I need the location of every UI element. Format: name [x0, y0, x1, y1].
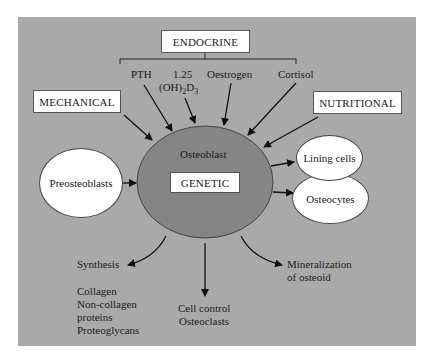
- vitamin-d-label-line2: (OH)2D3: [159, 81, 198, 98]
- vitamin-d-label-line1: 1.25: [173, 68, 192, 81]
- arrow-osteocytes: [273, 192, 293, 193]
- arrow-mineralization: [241, 236, 282, 265]
- endocrine-bracket: [120, 52, 296, 64]
- arrow-oestrogen: [224, 83, 231, 125]
- osteocytes-label: Osteocytes: [306, 193, 354, 205]
- arrow-lining-cells: [271, 162, 294, 166]
- nutritional-box: NUTRITIONAL: [313, 91, 402, 114]
- arrow-cortisol: [248, 83, 296, 135]
- synthesis-item: proteins: [77, 311, 112, 324]
- cortisol-label: Cortisol: [278, 68, 313, 81]
- synthesis-label: Synthesis: [77, 258, 119, 271]
- preosteoblasts-ellipse: Preosteoblasts: [39, 148, 123, 218]
- pth-label: PTH: [131, 68, 152, 81]
- cell-control-label: Cell control: [178, 302, 230, 315]
- synthesis-item: Collagen: [77, 285, 117, 298]
- mineralization-label: Mineralization: [287, 258, 352, 271]
- lining-cells-label: Lining cells: [303, 152, 355, 164]
- endocrine-box: ENDOCRINE: [161, 30, 250, 53]
- osteoid-label: of osteoid: [287, 271, 331, 284]
- endocrine-label: ENDOCRINE: [173, 36, 238, 48]
- osteoclasts-label: Osteoclasts: [179, 315, 229, 328]
- arrow-vitd: [185, 98, 195, 123]
- synthesis-item: Proteoglycans: [77, 324, 139, 337]
- genetic-label: GENETIC: [181, 177, 229, 189]
- oestrogen-label: Oestrogen: [207, 68, 252, 81]
- mechanical-box: MECHANICAL: [33, 90, 121, 113]
- mechanical-label: MECHANICAL: [39, 96, 114, 108]
- osteoblast-label: Osteoblast: [180, 148, 226, 161]
- arrow-mechanical: [124, 115, 152, 140]
- genetic-box: GENETIC: [170, 172, 240, 193]
- nutritional-label: NUTRITIONAL: [319, 97, 396, 109]
- arrow-synthesis: [128, 236, 166, 265]
- lining-cells-ellipse: Lining cells: [296, 135, 363, 181]
- osteoblast-regulation-diagram: ENDOCRINE MECHANICAL NUTRITIONAL PTH 1.2…: [0, 0, 434, 363]
- synthesis-item: Non-collagen: [77, 298, 137, 311]
- preosteoblasts-label: Preosteoblasts: [50, 177, 113, 189]
